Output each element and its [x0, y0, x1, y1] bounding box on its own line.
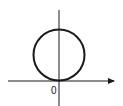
diagram-canvas: 0	[0, 0, 123, 106]
origin-label: 0	[51, 85, 57, 96]
